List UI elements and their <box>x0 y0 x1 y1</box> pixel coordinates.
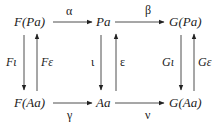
label-epsilon: ε <box>120 56 125 68</box>
label-G-epsilon: Gε <box>198 56 211 68</box>
label-F-epsilon: Fε <box>41 56 53 68</box>
node-Pa: Pa <box>96 15 110 28</box>
label-G-iota: Gι <box>162 56 174 68</box>
label-beta: β <box>145 4 151 16</box>
label-iota: ι <box>91 56 94 68</box>
label-F-iota: Fι <box>6 56 17 68</box>
node-F-Aa: F(Aa) <box>14 96 45 109</box>
label-nu: ν <box>145 109 150 121</box>
node-G-Aa: G(Aa) <box>169 96 202 109</box>
label-alpha: α <box>66 5 72 17</box>
node-Aa: Aa <box>96 96 110 109</box>
node-G-Pa: G(Pa) <box>169 15 202 28</box>
node-F-Pa: F(Pa) <box>14 15 45 28</box>
label-gamma: γ <box>67 109 72 121</box>
